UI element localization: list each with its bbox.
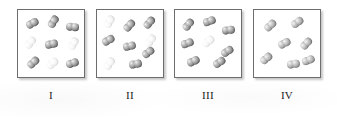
panel-i: [17, 9, 85, 78]
molecule: [101, 33, 118, 48]
panel-label-i: I: [21, 89, 81, 101]
molecule: [66, 22, 81, 32]
molecule: [23, 34, 39, 51]
molecule: [25, 16, 42, 31]
panel-label-iv: IV: [257, 89, 317, 101]
molecule: [301, 54, 317, 68]
panel-iv: [253, 9, 321, 78]
molecule: [103, 13, 118, 30]
molecule: [122, 40, 138, 52]
molecule: [263, 17, 279, 33]
panel-iii: [174, 9, 242, 78]
panel-ii: [96, 9, 164, 78]
molecule: [45, 56, 62, 72]
atom-sphere: [71, 23, 80, 32]
molecular-diagram-figure: I II III IV: [0, 0, 338, 119]
molecule: [128, 59, 143, 70]
molecule: [180, 37, 196, 50]
molecule: [286, 59, 301, 70]
panel-ii-contents: [97, 10, 163, 77]
molecule: [122, 17, 138, 33]
molecule: [221, 25, 236, 36]
panel-iii-contents: [175, 10, 241, 77]
molecule: [201, 34, 218, 50]
atom-sphere: [291, 59, 300, 68]
panel-label-ii: II: [100, 89, 160, 101]
molecule: [26, 54, 42, 70]
atom-sphere: [226, 25, 235, 34]
molecule: [202, 15, 218, 28]
molecule: [46, 13, 61, 30]
molecule: [102, 55, 117, 72]
molecule: [141, 45, 158, 61]
atom-sphere: [127, 41, 137, 51]
molecule: [44, 39, 60, 51]
atom-sphere: [133, 59, 142, 68]
molecule: [65, 57, 81, 70]
molecule: [67, 35, 82, 52]
molecule: [259, 51, 276, 67]
molecule: [181, 16, 197, 33]
molecule: [277, 36, 294, 51]
panel-label-iii: III: [178, 89, 238, 101]
molecule: [186, 55, 202, 69]
atom-sphere: [49, 39, 58, 48]
panel-iv-contents: [254, 10, 320, 77]
panel-i-contents: [18, 10, 84, 77]
molecule: [142, 14, 158, 31]
molecule: [290, 15, 307, 31]
molecule: [299, 35, 315, 51]
